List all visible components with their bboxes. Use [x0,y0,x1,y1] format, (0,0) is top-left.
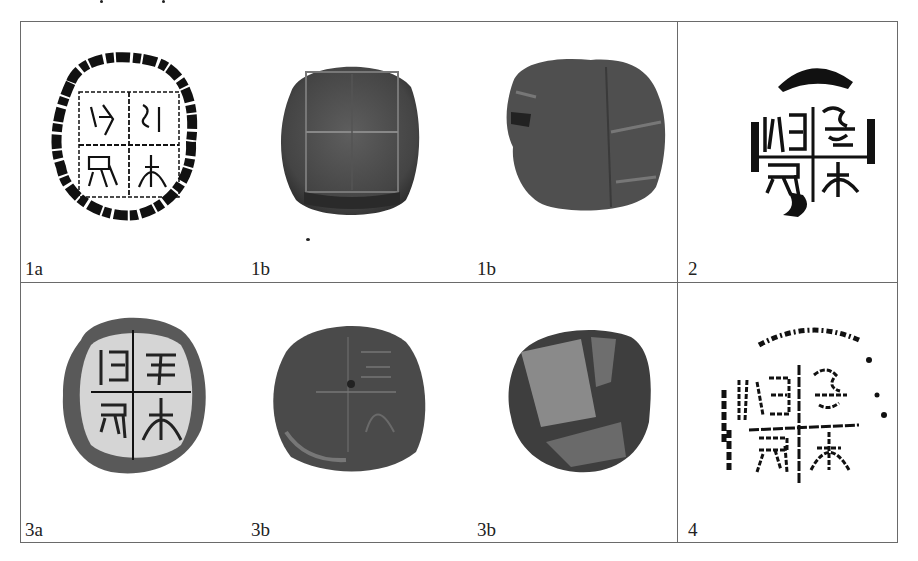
photo-1b-back [501,52,671,217]
panel-label-3b-back: 3b [477,520,496,539]
panel-label-1b-back: 1b [477,259,496,278]
cropped-text-fragment [162,0,165,3]
rubbing-3a [51,310,211,480]
panel-label-3b-front: 3b [251,520,270,539]
rubbing-1a [51,47,201,222]
panel-label-2: 2 [688,259,698,278]
rubbing-4 [719,320,899,490]
cropped-text-fragment [100,0,103,3]
photo-3b-back [501,317,661,477]
specimen-fleck [306,238,310,241]
photo-1b-front [276,52,421,220]
row-divider [21,282,897,283]
panel-label-1b-front: 1b [251,259,270,278]
column-divider [677,22,678,542]
photo-3b-front [266,312,431,477]
panel-label-1a: 1a [25,259,43,278]
figure-plate: 1a 1b 1b [20,21,898,543]
panel-label-4: 4 [688,520,698,539]
panel-label-3a: 3a [25,520,43,539]
rubbing-2 [743,57,883,217]
